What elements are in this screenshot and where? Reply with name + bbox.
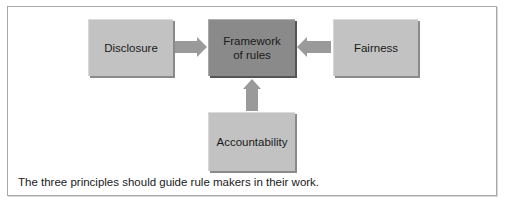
- arrow-fairness-to-framework: [307, 41, 331, 53]
- framework-of-rules-box: Framework of rules: [208, 19, 295, 76]
- disclosure-label: Disclosure: [104, 41, 158, 55]
- arrow-head-right-icon: [197, 37, 207, 57]
- disclosure-box: Disclosure: [88, 19, 173, 76]
- arrow-accountability-to-framework: [246, 89, 258, 111]
- arrow-disclosure-to-framework: [175, 41, 197, 53]
- fairness-box: Fairness: [333, 19, 418, 76]
- framework-label-line1: Framework: [223, 34, 281, 48]
- arrow-head-up-icon: [243, 79, 261, 89]
- fairness-label: Fairness: [354, 41, 398, 55]
- framework-label-line2: of rules: [233, 48, 271, 62]
- arrow-head-left-icon: [297, 37, 307, 57]
- figure-caption: The three principles should guide rule m…: [18, 176, 319, 188]
- accountability-label: Accountability: [217, 135, 288, 149]
- accountability-box: Accountability: [208, 112, 295, 171]
